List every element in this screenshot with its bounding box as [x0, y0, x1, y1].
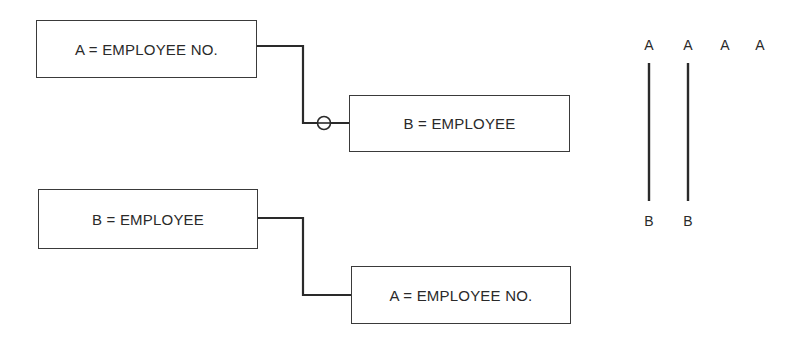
box-label: B = EMPLOYEE — [92, 211, 204, 228]
box-employee-bottom: B = EMPLOYEE — [38, 189, 258, 249]
mapping-letter-a-3: A — [720, 37, 729, 53]
box-label: A = EMPLOYEE NO. — [390, 287, 533, 304]
box-employee-no-bottom: A = EMPLOYEE NO. — [351, 266, 571, 324]
mapping-letter-b-1: B — [644, 213, 653, 229]
mapping-letter-a-4: A — [755, 37, 764, 53]
mapping-letter-a-1: A — [644, 37, 653, 53]
box-employee-top: B = EMPLOYEE — [349, 95, 570, 152]
box-label: A = EMPLOYEE NO. — [75, 41, 218, 58]
box-employee-no-top: A = EMPLOYEE NO. — [36, 20, 257, 78]
box-label: B = EMPLOYEE — [403, 115, 515, 132]
bottom-connector-line — [257, 218, 352, 295]
mapping-letter-a-2: A — [683, 37, 692, 53]
mapping-letter-b-2: B — [683, 213, 692, 229]
top-connector-line — [256, 46, 350, 123]
